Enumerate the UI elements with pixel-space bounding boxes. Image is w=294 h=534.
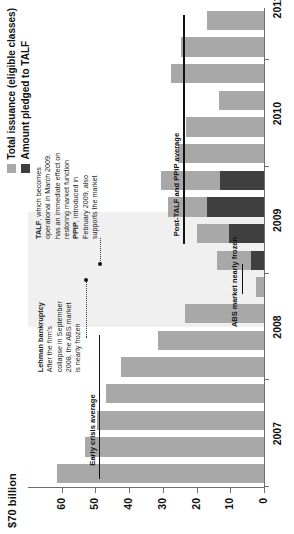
bar-column[interactable] (28, 464, 264, 483)
bar-total-issuance (106, 384, 264, 403)
category-axis-tick (264, 166, 269, 167)
annotation-lehman-dot (84, 278, 88, 282)
value-axis-tick (129, 487, 130, 493)
bar-total-issuance (57, 464, 264, 483)
post-talf-average-rule (183, 15, 185, 244)
value-axis-tick (197, 487, 198, 493)
rotated-chart-wrapper: $70 billion Total issuance (eligible cla… (0, 0, 294, 534)
legend-item-total: Total issuance (eligible classes) (6, 8, 17, 173)
bar-total-issuance (219, 91, 265, 110)
bar-column[interactable] (28, 91, 264, 110)
value-axis-tick (163, 487, 164, 493)
annotation-talf-title: TALF (34, 221, 43, 239)
value-axis-label: 10 (223, 498, 235, 528)
bar-amount-pledged-talf (207, 197, 264, 216)
plot-area: $70 billion Total issuance (eligible cla… (0, 0, 294, 534)
annotation-ppip-title: PPIP (71, 222, 80, 239)
bar-group (28, 7, 264, 487)
bar-column[interactable] (28, 277, 264, 296)
bar-column[interactable] (28, 11, 264, 30)
annotation-talf-leader (100, 238, 101, 265)
category-axis-tick (264, 486, 269, 487)
category-axis-tick (264, 379, 269, 380)
category-axis-tick (264, 273, 269, 274)
annotation-talf-ppip: TALF, which becomes operational in March… (34, 151, 99, 239)
abs-market-frozen-label: ABS market nearly frozen (230, 237, 239, 327)
value-axis-label: 20 (190, 498, 202, 528)
value-axis-label: 30 (156, 498, 168, 528)
axis-title: $70 billion (6, 473, 18, 528)
category-axis-label-2010: 2010 (271, 94, 283, 134)
legend-swatch-total-issuance (7, 164, 16, 173)
legend-label-total-issuance: Total issuance (eligible classes) (6, 8, 17, 160)
bar-total-issuance (186, 117, 264, 136)
bar-column[interactable] (28, 37, 264, 56)
annotation-lehman-title: Lehman bankruptcy (36, 302, 45, 372)
annotation-lehman-body: After the firm's collapse in September 2… (45, 301, 82, 372)
category-axis-label-2008: 2008 (271, 307, 283, 347)
bar-amount-pledged-talf (220, 171, 264, 190)
category-axis-label-2009: 2009 (271, 200, 283, 240)
category-axis-tick (264, 59, 269, 60)
category-axis-label-2007: 2007 (271, 414, 283, 454)
value-axis-tick (62, 487, 63, 493)
early-crisis-average-rule (99, 335, 101, 479)
bar-total-issuance (185, 304, 264, 323)
bar-total-issuance (256, 277, 264, 296)
bar-total-issuance (97, 411, 264, 430)
abs-market-frozen-rule (242, 264, 243, 293)
bar-column[interactable] (28, 251, 264, 270)
bar-total-issuance (85, 437, 264, 456)
chart-canvas: $70 billion Total issuance (eligible cla… (0, 0, 294, 534)
annotation-lehman-leader (86, 282, 87, 338)
bar-total-issuance (178, 144, 264, 163)
bar-total-issuance (121, 357, 264, 376)
bar-column[interactable] (28, 411, 264, 430)
value-axis-label: 40 (122, 498, 134, 528)
annotation-lehman: Lehman bankruptcyAfter the firm's collap… (36, 298, 82, 372)
annotation-talf-dot (98, 262, 102, 266)
bar-total-issuance (207, 11, 264, 30)
value-axis-label: 50 (88, 498, 100, 528)
bar-total-issuance (158, 331, 264, 350)
bar-column[interactable] (28, 64, 264, 83)
bar-column[interactable] (28, 117, 264, 136)
bar-total-issuance (171, 64, 264, 83)
category-axis-line (264, 8, 265, 488)
value-axis-tick (95, 487, 96, 493)
value-axis-label: 60 (55, 498, 67, 528)
category-axis-label-2011: 2011 (271, 0, 283, 27)
bar-column[interactable] (28, 384, 264, 403)
post-talf-average-label: Post-TALF and PPIP average (172, 133, 181, 237)
bar-total-issuance (181, 37, 264, 56)
early-crisis-average-label: Early crisis average (88, 394, 97, 465)
bar-amount-pledged-talf (251, 251, 264, 270)
value-axis-tick (230, 487, 231, 493)
value-axis-line (28, 487, 264, 488)
bar-column[interactable] (28, 437, 264, 456)
value-axis-label: 0 (257, 498, 269, 528)
